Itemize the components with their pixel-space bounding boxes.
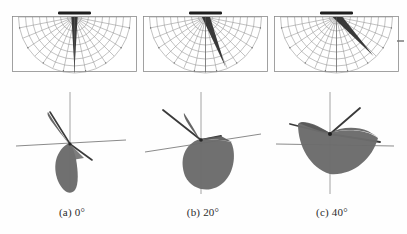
lobe-plot-c bbox=[268, 84, 400, 202]
caption-row: (a) 0° (b) 20° (c) 40° bbox=[0, 202, 407, 234]
lobe-plot-b bbox=[137, 84, 269, 202]
aperture-bar-b bbox=[189, 12, 222, 15]
scan-plot-c bbox=[274, 10, 399, 72]
bottom-row-3d-lobes bbox=[0, 84, 407, 202]
lobe-plot-a bbox=[6, 84, 138, 202]
scan-plot-a bbox=[12, 10, 137, 72]
scan-panel-b bbox=[143, 10, 268, 72]
aperture-bar-a bbox=[58, 12, 91, 15]
caption-a: (a) 0° bbox=[12, 206, 132, 218]
aperture-bar-c bbox=[320, 12, 353, 15]
caption-c: (c) 40° bbox=[272, 206, 392, 218]
oblique-axes-b bbox=[163, 110, 221, 140]
scan-panel-a bbox=[12, 10, 137, 72]
scan-panel-c bbox=[274, 10, 399, 72]
radiation-lobe-c bbox=[268, 84, 400, 202]
top-row-2d-panels bbox=[0, 0, 407, 84]
radiation-lobe-b bbox=[137, 84, 269, 202]
lobe-origin-b bbox=[199, 138, 203, 142]
lobe-upper-fin-b bbox=[184, 113, 200, 140]
caption-b: (b) 20° bbox=[143, 206, 263, 218]
figure-panel-grid: (a) 0° (b) 20° (c) 40° bbox=[0, 0, 407, 234]
lobe-origin-a bbox=[68, 142, 71, 145]
lobe-upper-fin-a bbox=[48, 112, 69, 144]
lobe-origin-c bbox=[328, 132, 332, 136]
radiation-lobe-a bbox=[6, 84, 138, 202]
scan-plot-b bbox=[143, 10, 268, 72]
lobe-main-body-b bbox=[183, 139, 234, 190]
edge-tick-mark bbox=[397, 40, 404, 42]
